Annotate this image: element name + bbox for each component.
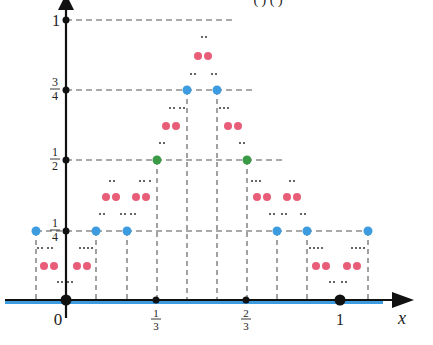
y-label-1-4-den: 4 — [52, 230, 58, 244]
y-label-1-2-num: 1 — [52, 145, 58, 159]
x-label-1-3-den: 3 — [153, 320, 159, 332]
x-label-1: 1 — [336, 311, 344, 328]
x-label-2-3-den: 3 — [243, 320, 249, 332]
y-label-3-4-den: 4 — [52, 89, 58, 103]
point-x-2-3 — [243, 297, 250, 304]
x-label-0: 0 — [54, 310, 63, 329]
point-y-1-2 — [63, 157, 70, 164]
y-label-1-4-num: 1 — [52, 216, 58, 230]
point-y-3-4 — [63, 87, 70, 94]
point-x-1-3 — [153, 297, 160, 304]
axis-points — [61, 17, 346, 306]
x-label-2-3-num: 2 — [243, 307, 249, 319]
y-label-1: 1 — [52, 12, 60, 29]
y-axis-arrow-icon — [58, 0, 74, 10]
point-x-1 — [335, 295, 346, 306]
horizontal-guides — [36, 20, 368, 231]
y-label-1-2-den: 2 — [52, 159, 58, 173]
x-axis-label: x — [397, 308, 406, 328]
x-label-1-3-num: 1 — [153, 307, 159, 319]
point-origin — [61, 295, 72, 306]
tent-map-figure: 1 3 4 1 2 1 4 0 1 3 2 3 1 x ( ) ( ) — [0, 0, 433, 345]
x-axis-arrow-icon — [392, 292, 414, 308]
y-label-3-4-num: 3 — [52, 75, 58, 89]
pink-dot-pairs — [40, 52, 361, 270]
point-y-1 — [63, 17, 70, 24]
point-y-1-4 — [63, 228, 70, 235]
blue-points — [32, 86, 373, 236]
title-fragment: ( ) ( ) — [253, 0, 282, 8]
